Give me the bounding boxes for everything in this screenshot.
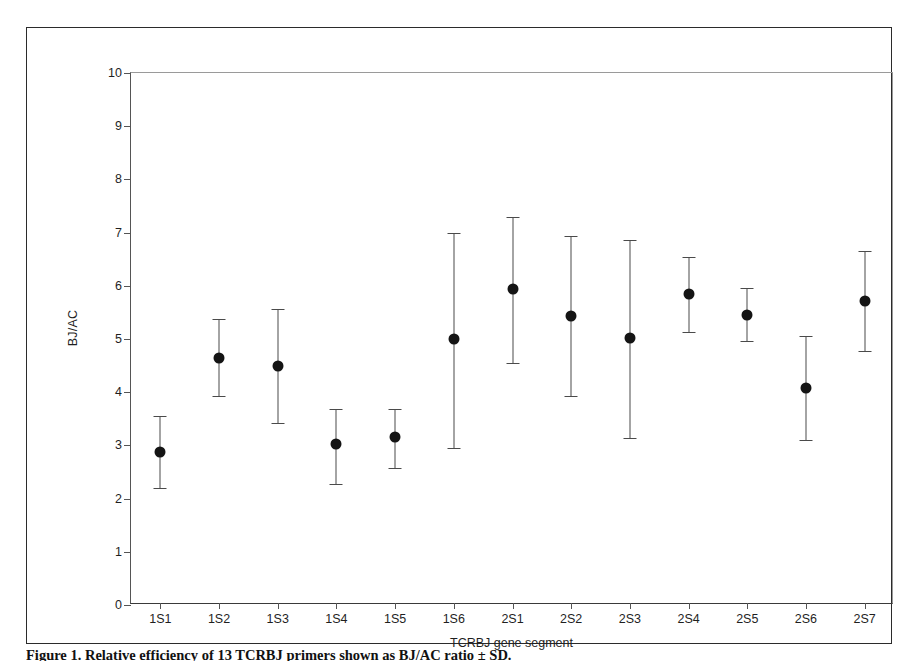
error-bar-cap-upper: [154, 416, 167, 417]
error-bar-cap-lower: [213, 396, 226, 397]
x-axis-tick-label: 2S4: [677, 613, 699, 626]
data-point-marker: [566, 311, 577, 322]
error-bar-cap-lower: [741, 341, 754, 342]
error-bar-cap-lower: [858, 351, 871, 352]
error-bar-cap-upper: [682, 257, 695, 258]
x-axis-tick: [160, 603, 161, 609]
x-axis-tick-label: 1S3: [267, 613, 289, 626]
error-bar-cap-upper: [741, 288, 754, 289]
x-axis-tick: [513, 603, 514, 609]
data-point-marker: [331, 439, 342, 450]
error-bar-cap-lower: [799, 440, 812, 441]
error-bar-cap-lower: [506, 363, 519, 364]
y-axis-tick: [124, 179, 131, 180]
x-axis-tick-label: 2S1: [501, 613, 523, 626]
data-point-marker: [624, 332, 635, 343]
x-axis-tick-label: 1S2: [208, 613, 230, 626]
x-axis-tick: [278, 603, 279, 609]
error-bar-cap-upper: [565, 236, 578, 237]
y-axis-tick: [124, 126, 131, 127]
error-bar-cap-lower: [565, 396, 578, 397]
x-axis-tick: [336, 603, 337, 609]
y-axis-title: BJ/AC: [66, 310, 80, 346]
x-axis-tick-label: 1S4: [325, 613, 347, 626]
y-axis-tick: [124, 392, 131, 393]
error-bar-cap-lower: [271, 423, 284, 424]
y-axis-tick: [124, 339, 131, 340]
error-bar-cap-upper: [330, 409, 343, 410]
data-point-marker: [859, 296, 870, 307]
x-axis-tick: [395, 603, 396, 609]
x-axis-tick-label: 2S6: [795, 613, 817, 626]
y-axis-tick-label: 3: [115, 439, 122, 452]
error-bar-cap-upper: [447, 233, 460, 234]
y-axis-tick-label: 10: [108, 67, 122, 80]
error-bar-cap-lower: [330, 484, 343, 485]
y-axis-tick-label: 0: [115, 599, 122, 612]
x-axis-tick-label: 1S5: [384, 613, 406, 626]
data-point-marker: [683, 288, 694, 299]
x-axis-tick: [454, 603, 455, 609]
data-point-marker: [448, 334, 459, 345]
y-axis-tick: [124, 499, 131, 500]
x-axis-tick-label: 2S7: [854, 613, 876, 626]
error-bar-cap-lower: [623, 438, 636, 439]
x-axis-tick-label: 2S3: [619, 613, 641, 626]
y-axis-tick-label: 6: [115, 280, 122, 293]
error-bar-cap-lower: [447, 448, 460, 449]
error-bar-cap-upper: [271, 309, 284, 310]
data-point-marker: [800, 382, 811, 393]
x-axis-tick: [689, 603, 690, 609]
y-axis-tick: [124, 73, 131, 74]
x-axis-tick: [747, 603, 748, 609]
error-bar-cap-upper: [213, 319, 226, 320]
error-bar-cap-upper: [799, 336, 812, 337]
error-bar-cap-upper: [506, 217, 519, 218]
x-axis-tick: [806, 603, 807, 609]
data-point-marker: [507, 283, 518, 294]
data-point-marker: [214, 352, 225, 363]
x-axis-tick: [571, 603, 572, 609]
x-axis-tick: [219, 603, 220, 609]
error-bar-cap-lower: [389, 468, 402, 469]
figure-frame: BJ/AC 012345678910 1S11S21S31S41S51S62S1…: [26, 27, 892, 644]
data-point-marker: [272, 360, 283, 371]
x-axis-tick: [630, 603, 631, 609]
y-axis-tick: [124, 552, 131, 553]
error-bar-cap-upper: [389, 409, 402, 410]
error-bar-cap-upper: [623, 240, 636, 241]
x-axis-tick-label: 2S2: [560, 613, 582, 626]
error-bar-cap-lower: [682, 332, 695, 333]
y-axis-tick-label: 9: [115, 120, 122, 133]
data-point-marker: [390, 432, 401, 443]
error-bar-cap-lower: [154, 488, 167, 489]
figure-caption: Figure 1. Relative efficiency of 13 TCRB…: [26, 648, 892, 661]
y-axis-tick-label: 5: [115, 333, 122, 346]
y-axis-tick: [124, 233, 131, 234]
data-point-marker: [155, 446, 166, 457]
x-axis-tick: [865, 603, 866, 609]
error-bar-cap-upper: [858, 251, 871, 252]
x-axis-tick-label: 1S1: [149, 613, 171, 626]
y-axis-tick-label: 7: [115, 226, 122, 239]
x-axis-tick-label: 2S5: [736, 613, 758, 626]
x-axis-tick-label: 1S6: [443, 613, 465, 626]
y-axis-tick: [124, 605, 131, 606]
y-axis-tick-label: 1: [115, 546, 122, 559]
data-point-marker: [742, 309, 753, 320]
y-axis-tick: [124, 286, 131, 287]
y-axis-tick-label: 4: [115, 386, 122, 399]
plot-area: 012345678910 1S11S21S31S41S51S62S12S22S3…: [130, 72, 893, 604]
y-axis-tick: [124, 445, 131, 446]
y-axis-tick-label: 2: [115, 492, 122, 505]
y-axis-tick-label: 8: [115, 173, 122, 186]
